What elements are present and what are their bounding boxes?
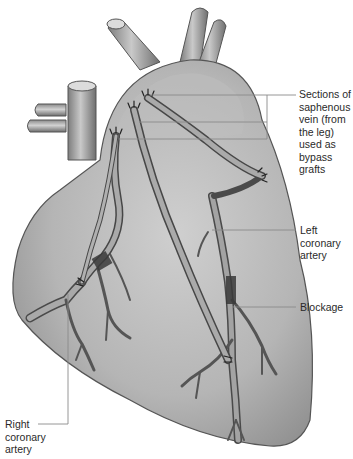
label-left-coronary-artery: Left coronary artery — [300, 224, 341, 262]
label-line: Left — [300, 224, 341, 237]
label-line: artery — [5, 443, 46, 456]
label-line: saphenous — [299, 101, 351, 114]
label-line: artery — [300, 249, 341, 262]
label-blockage: Blockage — [300, 301, 343, 314]
label-line: the leg) — [299, 126, 351, 139]
label-line: vein (from — [299, 113, 351, 126]
label-line: Blockage — [300, 301, 343, 314]
label-line: grafts — [299, 163, 351, 176]
label-right-coronary-artery: Right coronary artery — [5, 418, 46, 456]
label-line: used as — [299, 138, 351, 151]
label-line: Right — [5, 418, 46, 431]
label-line: coronary — [5, 431, 46, 444]
label-line: Sections of — [299, 88, 351, 101]
label-line: bypass — [299, 151, 351, 164]
label-line: coronary — [300, 237, 341, 250]
label-saphenous-vein-grafts: Sections of saphenous vein (from the leg… — [299, 88, 351, 176]
